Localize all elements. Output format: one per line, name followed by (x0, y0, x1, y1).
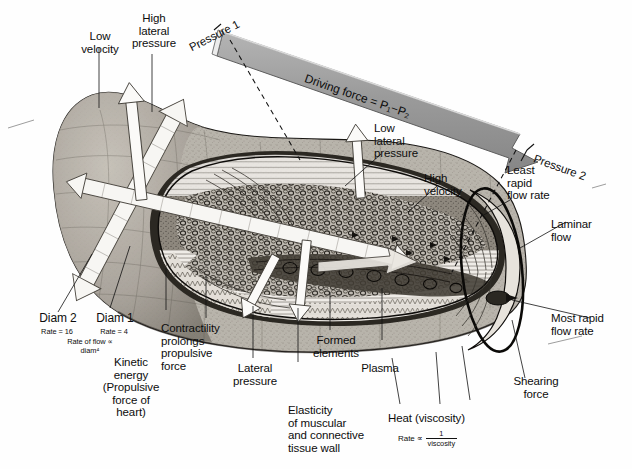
label-formed-elements: Formed elements (305, 334, 367, 359)
heat-rate-formula: Rate ∝ 1 viscosity (398, 430, 457, 448)
label-laminar-flow: Laminar flow (551, 218, 615, 243)
label-high-lateral-pressure: High lateral pressure (124, 12, 184, 50)
label-high-velocity: High velocity (424, 172, 480, 197)
label-lateral-pressure: Lateral pressure (224, 362, 286, 387)
label-heat-viscosity: Heat (viscosity) (388, 412, 498, 425)
label-diam-1-rate: Rate = 4 (86, 328, 142, 337)
label-low-velocity: Low velocity (72, 30, 128, 55)
label-shearing-force: Shearing force (505, 375, 567, 400)
heat-rate-prefix: Rate ∝ (398, 435, 423, 444)
label-elasticity: Elasticity of muscular and connective ti… (288, 404, 390, 454)
label-plasma: Plasma (352, 362, 408, 375)
heat-rate-fraction: 1 viscosity (426, 430, 457, 448)
label-least-rapid-flow-rate: Least rapid flow rate (507, 164, 567, 202)
label-most-rapid-flow-rate: Most rapid flow rate (551, 312, 629, 337)
heat-rate-denominator: viscosity (426, 439, 457, 448)
label-low-lateral-pressure: Low lateral pressure (374, 122, 436, 160)
label-rate-of-flow-term: diam⁴ (42, 347, 138, 356)
label-diam-2: Diam 2 (31, 312, 85, 325)
diagram-canvas: Low velocity High lateral pressure Press… (0, 0, 632, 469)
label-diam-2-rate: Rate = 16 (28, 328, 86, 337)
heat-rate-numerator: 1 (426, 430, 457, 439)
label-diam-1: Diam 1 (88, 312, 142, 325)
